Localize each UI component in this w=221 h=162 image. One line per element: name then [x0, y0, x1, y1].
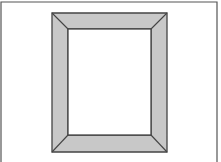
picture-frame-diagram	[0, 0, 221, 162]
diagram-canvas	[0, 0, 221, 162]
frame-opening	[68, 29, 151, 135]
